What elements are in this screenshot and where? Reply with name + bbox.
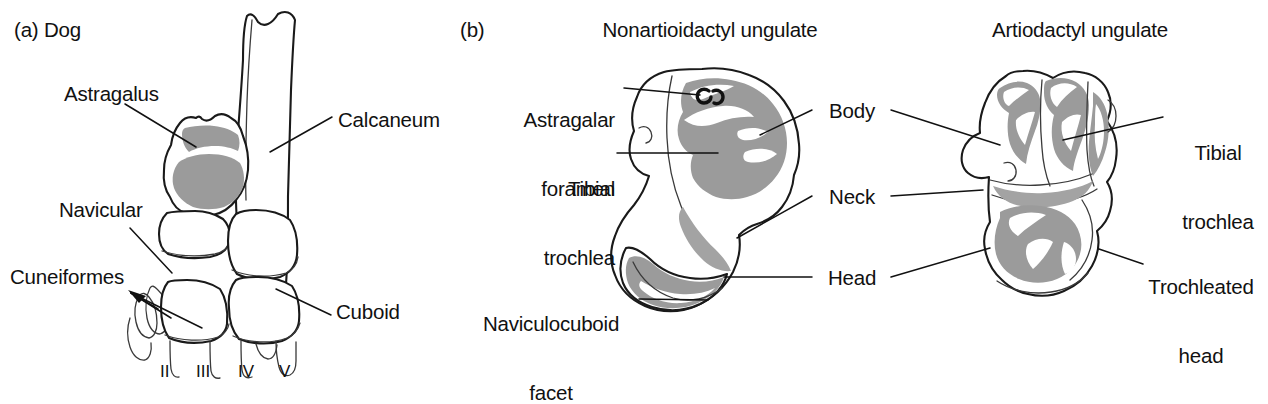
leader-naviculocuboid-facet: [639, 299, 708, 300]
label-body: Body: [818, 99, 886, 122]
label-astragalus: Astragalus: [64, 82, 159, 105]
cuneiform-third: [161, 280, 227, 343]
metatarsal-ii-stub: [170, 341, 179, 377]
label-naviculocuboid-facet-line1: Naviculocuboid: [466, 312, 636, 335]
artiodactyl-astragalus-drawing: [962, 71, 1117, 296]
metatarsal-v-notch: [256, 344, 277, 359]
metatarsal-numeral-iii: III: [196, 362, 210, 382]
panel-b-title-artiodactyl: Artiodactyl ungulate: [930, 18, 1230, 41]
metatarsal-numeral-ii: II: [160, 362, 169, 382]
leader-head-right: [891, 248, 990, 277]
label-cuneiformes: Cuneiformes: [10, 265, 124, 288]
label-naviculocuboid-facet: Naviculocuboid facet: [466, 266, 636, 404]
nonartiodactyl-astragalus-drawing: [611, 68, 799, 311]
label-head: Head: [818, 266, 886, 289]
metatarsal-iii-stub: [210, 342, 220, 378]
leader-neck-right: [891, 190, 983, 196]
panel-b-title-nonartiodactyl: Nonartioidactyl ungulate: [560, 18, 860, 41]
label-naviculocuboid-facet-line2: facet: [466, 381, 636, 404]
label-trochleated-head-line2: head: [1134, 344, 1268, 367]
label-tibial-trochlea-right-line1: Tibial: [1168, 141, 1268, 164]
panel-b-tag: (b): [460, 18, 484, 41]
label-trochleated-head-line1: Trochleated: [1134, 275, 1268, 298]
cuboid-bone: [228, 210, 297, 279]
panel-a-tag-and-title: (a) Dog: [14, 18, 81, 41]
label-tibial-trochlea-left-line1: Tibial: [460, 177, 615, 200]
dog-tarsus-drawing: [125, 12, 332, 378]
label-trochleated-head: Trochleated head: [1134, 229, 1268, 404]
fourth-tarsal-bone: [229, 277, 299, 343]
label-cuboid: Cuboid: [336, 300, 400, 323]
label-calcaneum: Calcaneum: [338, 108, 440, 131]
label-navicular: Navicular: [59, 198, 143, 221]
metatarsal-numeral-v: V: [279, 362, 290, 382]
navicular-bone: [159, 211, 230, 258]
accessory-outline: [128, 318, 152, 360]
metatarsal-numeral-iv: IV: [238, 362, 254, 382]
label-astragalar-foramen-line1: Astragalar: [460, 108, 615, 131]
label-neck: Neck: [818, 185, 886, 208]
